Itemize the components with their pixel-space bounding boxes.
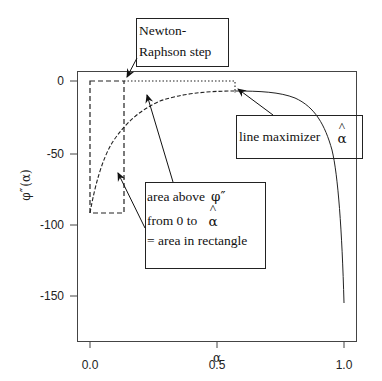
area-label-line3: = area in rectangle xyxy=(147,233,247,248)
maximizer-arrow xyxy=(238,89,273,115)
x-axis-title: α xyxy=(213,351,221,365)
alpha-hat-symbol: α xyxy=(208,213,217,229)
y-tick-label: -100 xyxy=(40,218,64,232)
newton-step-box xyxy=(124,81,235,93)
newton-raphson-label-line2: Raphson step xyxy=(139,44,212,59)
newton-arrow xyxy=(127,58,137,77)
x-tick-label: 1.0 xyxy=(336,358,353,372)
area-arrow-rectangle xyxy=(118,173,145,228)
alpha-hat-symbol: α xyxy=(337,130,346,146)
y-tick-label: 0 xyxy=(57,74,64,88)
chart-canvas: 0 -50 -100 -150 0.0 0.5 1.0 α φ″(α) Newt… xyxy=(0,0,382,381)
area-rectangle xyxy=(90,81,124,213)
svg-text:φ″(α): φ″(α) xyxy=(19,169,33,200)
y-axis-title: φ″(α) xyxy=(19,169,33,200)
x-tick-label: 0.0 xyxy=(82,358,99,372)
x-axis xyxy=(90,341,344,348)
y-axis xyxy=(70,81,77,296)
y-tick-label: -50 xyxy=(47,147,65,161)
y-tick-label: -150 xyxy=(40,289,64,303)
line-maximizer-label: line maximizer xyxy=(239,129,321,144)
newton-raphson-label-line1: Newton- xyxy=(139,23,187,38)
area-arrow-curve xyxy=(147,95,173,182)
area-label-line2: from 0 to xyxy=(147,213,197,228)
